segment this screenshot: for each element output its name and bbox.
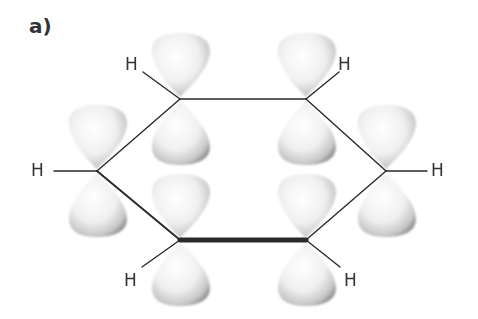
hydrogen-label-6: H: [344, 270, 357, 290]
hydrogen-label-2: H: [338, 54, 351, 74]
panel-label: a): [29, 14, 52, 38]
sigma-bonds: [54, 72, 427, 267]
benzene-orbital-diagram: a) H H H H H H: [0, 0, 478, 319]
hydrogen-label-1: H: [125, 54, 138, 74]
hydrogen-label-3: H: [31, 160, 44, 180]
hydrogen-label-4: H: [431, 160, 444, 180]
orbital-diagram-svg: [0, 0, 478, 319]
hydrogen-label-5: H: [124, 270, 137, 290]
orbital-lobes: [69, 33, 416, 306]
